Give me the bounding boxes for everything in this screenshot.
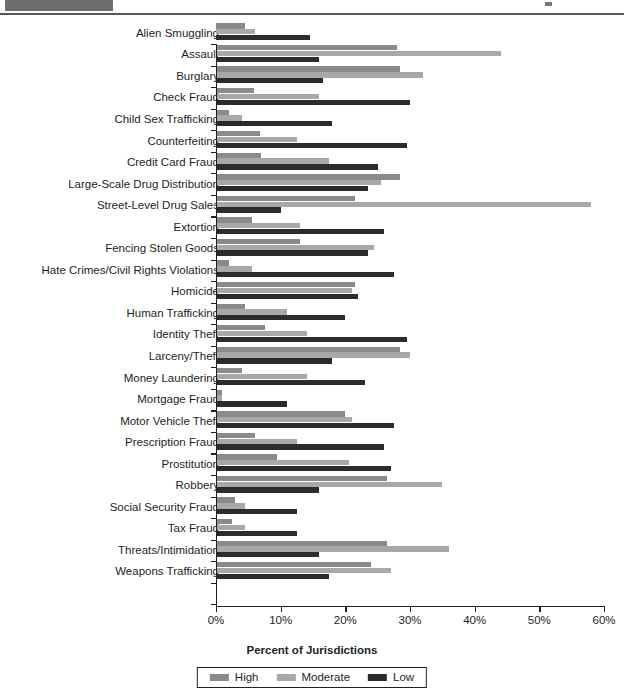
category-tick: [211, 87, 216, 88]
category-tick: [211, 303, 216, 304]
bar-low: [216, 531, 297, 536]
category-tick: [211, 518, 216, 519]
bar-group: [216, 368, 604, 387]
bar-low: [216, 164, 378, 169]
bar-low: [216, 337, 407, 342]
bar-moderate: [216, 158, 329, 163]
bar-moderate: [216, 460, 349, 465]
category-label: Burglary: [176, 70, 219, 82]
category-tick: [211, 497, 216, 498]
category-label: Credit Card Fraud: [127, 156, 219, 168]
category-tick: [211, 44, 216, 45]
chart-legend: HighModerateLow: [197, 667, 427, 688]
category-label: Threats/Intimidation: [118, 544, 219, 556]
grouped-bar-chart: Alien SmugglingAssaultBurglaryCheck Frau…: [0, 22, 624, 622]
category-label: Street-Level Drug Sales: [97, 199, 219, 211]
bar-moderate: [216, 266, 252, 271]
bar-low: [216, 401, 287, 406]
chart-row: Alien Smuggling: [0, 22, 624, 44]
bar-high: [216, 541, 387, 546]
category-label: Check Fraud: [153, 91, 219, 103]
category-tick: [211, 410, 216, 411]
bar-high: [216, 110, 229, 115]
bar-low: [216, 358, 332, 363]
chart-row: Credit Card Fraud: [0, 151, 624, 173]
bar-moderate: [216, 439, 297, 444]
bar-group: [216, 411, 604, 430]
category-label: Money Laundering: [124, 371, 219, 383]
bar-moderate: [216, 525, 245, 530]
bar-moderate: [216, 180, 381, 185]
bar-group: [216, 303, 604, 322]
category-tick: [211, 540, 216, 541]
bar-high: [216, 519, 232, 524]
bar-low: [216, 100, 410, 105]
chart-row: Prostitution: [0, 453, 624, 475]
category-label: Child Sex Trafficking: [114, 113, 219, 125]
chart-row: Counterfeiting: [0, 130, 624, 152]
bar-group: [216, 389, 604, 408]
bar-low: [216, 574, 329, 579]
category-tick: [211, 238, 216, 239]
bar-low: [216, 121, 332, 126]
category-tick: [211, 583, 216, 584]
bar-group: [216, 217, 604, 236]
bar-high: [216, 153, 261, 158]
bar-moderate: [216, 546, 449, 551]
bar-group: [216, 540, 604, 559]
bar-low: [216, 207, 281, 212]
legend-item-low[interactable]: Low: [368, 671, 414, 683]
chart-row: Hate Crimes/Civil Rights Violations: [0, 259, 624, 281]
category-tick: [211, 260, 216, 261]
bar-group: [216, 174, 604, 193]
bar-group: [216, 45, 604, 64]
bar-low: [216, 487, 319, 492]
category-label: Large-Scale Drug Distribution: [68, 178, 219, 190]
bar-low: [216, 294, 358, 299]
bar-high: [216, 131, 260, 136]
header-divider: [0, 13, 624, 15]
bar-group: [216, 454, 604, 473]
chart-row: Tax Fraud: [0, 518, 624, 540]
bar-moderate: [216, 568, 391, 573]
chart-row: Burglary: [0, 65, 624, 87]
bar-moderate: [216, 374, 307, 379]
category-label: Tax Fraud: [168, 522, 219, 534]
chart-row: Extortion: [0, 216, 624, 238]
bar-low: [216, 143, 407, 148]
chart-row: Social Security Fraud: [0, 496, 624, 518]
bar-high: [216, 23, 245, 28]
bar-low: [216, 466, 391, 471]
value-tick-label: 30%: [398, 614, 421, 626]
category-tick: [211, 66, 216, 67]
chart-row: Money Laundering: [0, 367, 624, 389]
bar-group: [216, 325, 604, 344]
legend-label: Moderate: [301, 671, 350, 683]
value-tick-label: 0%: [208, 614, 225, 626]
bar-high: [216, 88, 254, 93]
bar-high: [216, 174, 400, 179]
bar-high: [216, 304, 245, 309]
bar-high: [216, 45, 397, 50]
category-tick: [211, 389, 216, 390]
chart-rows: Alien SmugglingAssaultBurglaryCheck Frau…: [0, 22, 624, 582]
category-label: Prostitution: [161, 458, 219, 470]
category-label: Assault: [181, 48, 219, 60]
chart-row: Street-Level Drug Sales: [0, 194, 624, 216]
bar-low: [216, 423, 394, 428]
bar-group: [216, 282, 604, 301]
category-label: Prescription Fraud: [125, 436, 219, 448]
legend-item-moderate[interactable]: Moderate: [276, 671, 350, 683]
header-page-mark: [545, 2, 552, 6]
bar-low: [216, 444, 384, 449]
chart-row: Motor Vehicle Theft: [0, 410, 624, 432]
category-label: Social Security Fraud: [110, 501, 219, 513]
bar-group: [216, 23, 604, 42]
value-tick-label: 50%: [528, 614, 551, 626]
category-label: Homicide: [171, 285, 219, 297]
chart-row: Larceny/Theft: [0, 345, 624, 367]
bar-high: [216, 66, 400, 71]
category-tick: [211, 152, 216, 153]
legend-item-high[interactable]: High: [210, 671, 259, 683]
value-tick: [604, 607, 605, 612]
